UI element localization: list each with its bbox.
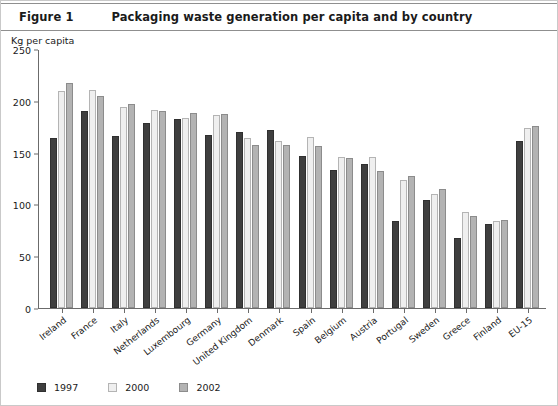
bar-group <box>50 50 74 308</box>
figure-title: Packaging waste generation per capita an… <box>112 10 473 24</box>
bar <box>501 220 508 308</box>
plot-area: 050100150200250 <box>38 50 546 309</box>
bar <box>423 200 430 308</box>
y-axis-tick-mark <box>34 50 38 51</box>
bar <box>330 170 337 308</box>
bar <box>431 194 438 308</box>
bar <box>299 156 306 308</box>
bar <box>221 114 228 308</box>
bar <box>532 126 539 308</box>
x-axis-tick-mark <box>62 309 63 313</box>
bar-group <box>267 50 291 308</box>
bar-group <box>81 50 105 308</box>
bar <box>267 130 274 308</box>
bar <box>485 224 492 308</box>
x-axis-tick-mark <box>186 309 187 313</box>
figure-container: Figure 1 Packaging waste generation per … <box>0 0 558 406</box>
bar-group <box>236 50 260 308</box>
bar <box>493 221 500 308</box>
bar <box>338 157 345 308</box>
x-axis-tick-mark <box>528 309 529 313</box>
x-axis-tick-mark <box>404 309 405 313</box>
legend-item[interactable]: 2000 <box>108 382 149 393</box>
bar <box>400 180 407 308</box>
bar-group <box>516 50 540 308</box>
x-axis-tick-mark <box>435 309 436 313</box>
bar <box>439 189 446 308</box>
bar-group <box>423 50 447 308</box>
bar <box>524 128 531 308</box>
bar <box>97 96 104 308</box>
y-axis-tick-mark <box>34 153 38 154</box>
y-axis-tick-mark <box>34 257 38 258</box>
x-axis-line <box>38 308 546 309</box>
bar-group <box>454 50 478 308</box>
figure-header: Figure 1 Packaging waste generation per … <box>1 3 557 31</box>
chart-legend: 199720002002 <box>37 382 221 393</box>
figure-number-label: Figure 1 <box>19 10 74 24</box>
bar <box>159 111 166 308</box>
bar <box>236 132 243 308</box>
x-axis-tick-mark <box>217 309 218 313</box>
bar <box>50 138 57 308</box>
bar <box>307 137 314 308</box>
bar <box>151 110 158 308</box>
bar <box>81 111 88 308</box>
y-axis-line <box>38 50 39 309</box>
x-axis-tick-mark <box>155 309 156 313</box>
bar <box>315 146 322 308</box>
y-axis-tick-mark <box>34 309 38 310</box>
bar-group <box>205 50 229 308</box>
bar <box>66 83 73 308</box>
bar-group <box>174 50 198 308</box>
legend-item[interactable]: 1997 <box>37 382 78 393</box>
legend-swatch-icon <box>179 383 188 392</box>
x-axis-tick-mark <box>497 309 498 313</box>
bar <box>454 238 461 308</box>
bar <box>244 138 251 308</box>
legend-label: 1997 <box>54 382 78 393</box>
x-axis-tick-mark <box>248 309 249 313</box>
x-axis-tick-mark <box>124 309 125 313</box>
bar <box>377 171 384 308</box>
bar <box>205 135 212 308</box>
bar <box>182 118 189 308</box>
bar <box>112 136 119 308</box>
bar-group <box>299 50 323 308</box>
bar <box>190 113 197 308</box>
bar <box>120 107 127 308</box>
x-axis-tick-mark <box>279 309 280 313</box>
legend-item[interactable]: 2002 <box>179 382 220 393</box>
y-axis-tick-mark <box>34 205 38 206</box>
x-axis-tick-mark <box>311 309 312 313</box>
bar <box>275 141 282 308</box>
bar-group <box>143 50 167 308</box>
bar-group <box>392 50 416 308</box>
x-axis-tick-mark <box>373 309 374 313</box>
x-axis-tick-mark <box>466 309 467 313</box>
bar <box>174 119 181 308</box>
bar <box>128 104 135 308</box>
y-axis-tick-mark <box>34 101 38 102</box>
bar <box>283 145 290 308</box>
bar-group <box>330 50 354 308</box>
legend-label: 2002 <box>196 382 220 393</box>
legend-label: 2000 <box>125 382 149 393</box>
bar <box>58 91 65 308</box>
bar <box>143 123 150 308</box>
bar <box>408 176 415 308</box>
bar <box>361 164 368 308</box>
bar <box>516 141 523 308</box>
bar <box>89 90 96 308</box>
bar <box>462 212 469 308</box>
bar <box>346 158 353 308</box>
x-axis-tick-mark <box>342 309 343 313</box>
x-axis-tick-mark <box>93 309 94 313</box>
bar-group <box>112 50 136 308</box>
bar <box>369 157 376 308</box>
bar <box>470 216 477 308</box>
bar-group <box>361 50 385 308</box>
legend-swatch-icon <box>37 383 46 392</box>
bar-group <box>485 50 509 308</box>
bar <box>213 115 220 308</box>
